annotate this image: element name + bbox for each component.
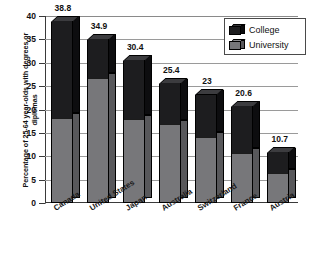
bar-side-college [253, 101, 260, 148]
bar-side-university [253, 148, 260, 197]
bar-chart: Percentage of 25-64 year-olds with degre… [0, 0, 317, 267]
bar-total-label: 30.4 [127, 42, 144, 52]
legend-label-college: College [249, 25, 280, 35]
bar-side-university [109, 73, 116, 197]
bar-group[interactable]: 16.625.4 [159, 84, 181, 203]
legend-item-college: College [229, 22, 280, 37]
bar-group[interactable]: 18.038.8 [51, 22, 73, 203]
y-tick-mark [39, 203, 45, 204]
chart-legend: College University [224, 18, 306, 55]
y-tick-label: 40 [27, 11, 36, 21]
bar-total-label: 20.6 [235, 88, 252, 98]
bar-segment-college [124, 60, 144, 119]
bar-side-university [145, 115, 152, 198]
bar-side-university [181, 120, 188, 198]
y-tick-label: 25 [27, 81, 36, 91]
y-tick-label: 20 [27, 105, 36, 115]
bar-front [87, 40, 109, 203]
bar-front [159, 84, 181, 203]
bar-side-college [145, 55, 152, 114]
bar-segment-college [88, 39, 108, 78]
bar-segment-college [232, 106, 252, 153]
bar-segment-university [52, 118, 72, 202]
bar-segment-college [268, 152, 288, 173]
bar-side-college [73, 16, 80, 113]
y-tick-label: 15 [27, 128, 36, 138]
legend-swatch-university-icon [229, 39, 245, 50]
bar-segment-university [88, 78, 108, 202]
y-tick-label: 0 [31, 198, 36, 208]
y-tick-label: 30 [27, 58, 36, 68]
bar-total-label: 34.9 [91, 21, 108, 31]
bar-front [195, 95, 217, 203]
bar-segment-college [160, 83, 180, 124]
bar-segment-college [52, 21, 72, 118]
legend-item-university: University [229, 37, 289, 52]
bar-side-college [109, 34, 116, 73]
bar-segment-college [196, 95, 216, 137]
bar-total-label: 23 [202, 76, 211, 86]
bar-segment-university [196, 137, 216, 202]
bar-side-university [73, 113, 80, 197]
x-axis-labels: CanadaUnited StatesJapanAustraliaSwitzer… [45, 205, 298, 265]
bar-segment-university [160, 124, 180, 202]
bar-group[interactable]: 26.634.9 [87, 40, 109, 203]
legend-swatch-college-icon [229, 24, 245, 35]
bar-group[interactable]: 1423 [195, 95, 217, 203]
bar-side-college [217, 90, 224, 132]
bar-total-label: 10.7 [271, 134, 288, 144]
bar-total-label: 25.4 [163, 65, 180, 75]
y-tick-label: 10 [27, 151, 36, 161]
bar-side-college [181, 79, 188, 120]
legend-label-university: University [249, 40, 289, 50]
bar-total-label: 38.8 [55, 3, 72, 13]
y-tick-label: 5 [31, 175, 36, 185]
bar-front [51, 22, 73, 203]
y-tick-label: 35 [27, 34, 36, 44]
